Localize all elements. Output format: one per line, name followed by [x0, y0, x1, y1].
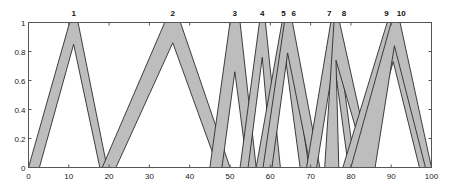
x-tick-label: 80 [346, 172, 355, 181]
x-tick-label: 10 [64, 172, 73, 181]
membership-label-7: 7 [327, 9, 332, 18]
membership-label-10: 10 [397, 9, 406, 18]
y-tick-label: 0 [21, 164, 26, 173]
x-tick-label: 50 [226, 172, 235, 181]
membership-band-2 [102, 23, 230, 168]
membership-label-4: 4 [260, 9, 265, 18]
y-tick-label: 1 [21, 19, 26, 28]
membership-bands [29, 23, 432, 168]
y-tick-label: 0.6 [14, 77, 26, 86]
membership-function-chart: 0102030405060708090100 00.20.40.60.81 12… [0, 0, 449, 187]
membership-labels: 12345678910 [71, 9, 406, 18]
membership-label-5: 5 [281, 9, 286, 18]
membership-label-2: 2 [171, 9, 176, 18]
membership-label-3: 3 [233, 9, 238, 18]
x-tick-label: 70 [306, 172, 315, 181]
membership-band-1 [29, 23, 108, 168]
y-tick-label: 0.8 [14, 48, 26, 57]
x-tick-label: 60 [266, 172, 275, 181]
x-tick-label: 20 [105, 172, 114, 181]
membership-label-6: 6 [291, 9, 296, 18]
membership-label-8: 8 [342, 9, 347, 18]
y-tick-label: 0.4 [14, 106, 26, 115]
x-tick-label: 40 [185, 172, 194, 181]
y-tick-label: 0.2 [14, 135, 26, 144]
x-tick-label: 30 [145, 172, 154, 181]
membership-label-9: 9 [384, 9, 389, 18]
membership-label-1: 1 [71, 9, 76, 18]
x-tick-label: 100 [425, 172, 439, 181]
x-tick-label: 0 [26, 172, 31, 181]
x-tick-label: 90 [387, 172, 396, 181]
